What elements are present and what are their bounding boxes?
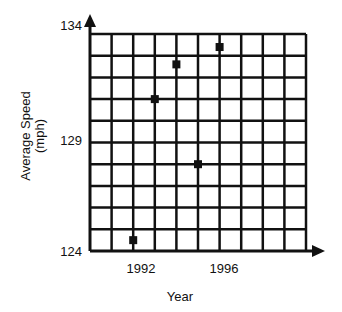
y-tick-label-124: 124 (60, 244, 82, 259)
axes (84, 14, 325, 257)
data-point-square-icon (172, 60, 180, 68)
y-axis-title: Average Speed (18, 91, 33, 180)
y-tick-label-129: 129 (60, 133, 82, 148)
scatter-chart: 134 129 124 1992 1996 Year Average Speed… (0, 0, 342, 312)
grid-lines (90, 34, 306, 251)
x-tick-label-1992: 1992 (127, 261, 156, 276)
x-tick-label-1996: 1996 (210, 261, 239, 276)
x-axis-title: Year (167, 289, 194, 304)
data-point-square-icon (151, 95, 159, 103)
data-point-square-icon (216, 43, 224, 51)
x-axis-arrow-icon (312, 245, 325, 257)
data-point-square-icon (129, 236, 137, 244)
y-tick-label-134: 134 (60, 18, 82, 33)
y-axis-units: (mph) (32, 119, 47, 153)
y-axis-arrow-icon (84, 14, 96, 27)
data-point-square-icon (194, 160, 202, 168)
